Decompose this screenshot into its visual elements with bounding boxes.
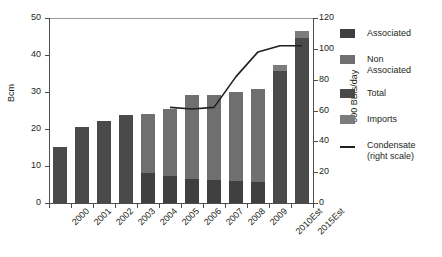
y-axis-left-tick-label: 20	[19, 124, 41, 133]
x-axis-label: 2000	[70, 206, 91, 227]
x-axis-labels: 2000200120022003200420052006200720082009…	[49, 206, 313, 256]
legend-swatch-associated-icon	[340, 29, 355, 38]
y-axis-left-tick-label: 10	[19, 161, 41, 170]
y-axis-left-tick-label: 50	[19, 13, 41, 22]
y-axis-left-tick-label: 40	[19, 50, 41, 59]
legend-item-associated[interactable]: Associated	[340, 28, 440, 42]
legend-label-imports: Imports	[367, 114, 440, 125]
y-axis-right-tick	[314, 203, 318, 204]
y-axis-right-tick	[314, 49, 318, 50]
condensate-line	[170, 46, 302, 109]
legend-item-non-associated[interactable]: Non Associated	[340, 54, 440, 76]
x-axis-label: 2008	[246, 206, 267, 227]
legend-line-condensate-icon	[340, 146, 355, 148]
legend-item-condensate[interactable]: Condensate (right scale)	[340, 140, 440, 162]
legend-label-non-associated-line1: Non	[367, 54, 440, 65]
legend-label-condensate-line1: Condensate	[367, 140, 440, 151]
x-axis-label: 2009	[268, 206, 289, 227]
legend-item-total[interactable]: Total	[340, 88, 440, 102]
legend-label-non-associated: Non Associated	[367, 54, 440, 76]
legend-label-condensate: Condensate (right scale)	[367, 140, 440, 162]
x-axis-label: 2003	[136, 206, 157, 227]
condensate-line-layer	[49, 18, 313, 203]
y-axis-right-tick	[314, 18, 318, 19]
y-axis-right-tick	[314, 141, 318, 142]
x-axis-label: 2001	[92, 206, 113, 227]
legend-label-non-associated-line2: Associated	[367, 65, 440, 76]
y-axis-left-tick-label: 30	[19, 87, 41, 96]
y-axis-right-tick-label: 120	[319, 13, 343, 22]
legend-label-total: Total	[367, 88, 440, 99]
y-axis-left-tick-label: 0	[19, 198, 41, 207]
y-axis-right-tick	[314, 80, 318, 81]
legend-swatch-non-associated-icon	[340, 55, 355, 64]
legend-label-condensate-line2: (right scale)	[367, 151, 440, 162]
legend-item-imports[interactable]: Imports	[340, 114, 440, 128]
chart-legend: Associated Non Associated Total Imports …	[340, 28, 440, 174]
x-axis-label: 2006	[202, 206, 223, 227]
legend-swatch-total-icon	[340, 89, 355, 98]
x-axis-label: 2002	[114, 206, 135, 227]
x-axis-label: 2007	[224, 206, 245, 227]
chart-root: 01020304050 020406080100120 Bcm '000 BBl…	[0, 0, 442, 257]
y-axis-right-tick	[314, 111, 318, 112]
legend-swatch-imports-icon	[340, 115, 355, 124]
y-axis-left-title: Bcm	[6, 58, 16, 128]
legend-label-associated: Associated	[367, 28, 440, 39]
x-axis-label: 2005	[180, 206, 201, 227]
x-axis-label: 2004	[158, 206, 179, 227]
y-axis-right-tick	[314, 172, 318, 173]
